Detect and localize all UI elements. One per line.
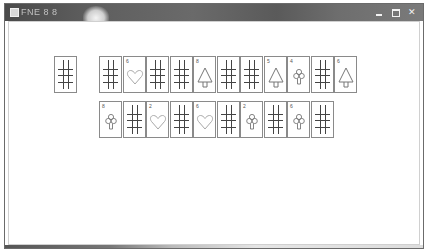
row-1-card[interactable]	[146, 56, 169, 93]
card-rank: 2	[243, 103, 246, 109]
heart-icon	[149, 110, 167, 134]
card-rank: 6	[290, 103, 293, 109]
title-bar[interactable]: FNE 8 8 ✕	[5, 4, 423, 21]
card-back-grid-icon	[315, 60, 330, 89]
card-back-grid-icon	[268, 105, 283, 134]
row-1-card[interactable]: 4	[287, 56, 310, 93]
card-back-grid-icon	[103, 60, 118, 89]
card-back-grid-icon	[221, 105, 236, 134]
row-1-card[interactable]	[240, 56, 263, 93]
window-title: FNE 8 8	[21, 7, 58, 17]
spade-icon	[196, 65, 214, 89]
spade-icon	[337, 65, 355, 89]
row-2-card[interactable]: 8	[99, 101, 122, 138]
club-icon	[290, 65, 308, 89]
window-bottom-edge	[5, 245, 423, 248]
card-rank: 6	[196, 103, 199, 109]
row-2-card[interactable]	[311, 101, 334, 138]
app-icon[interactable]	[10, 8, 19, 17]
row-2-card[interactable]: 6	[193, 101, 216, 138]
card-back-grid-icon	[174, 60, 189, 89]
card-rank: 6	[126, 58, 129, 64]
spade-icon	[267, 65, 285, 89]
card-back-grid-icon	[174, 105, 189, 134]
row-2-card[interactable]	[123, 101, 146, 138]
card-rank: 4	[290, 58, 293, 64]
close-button[interactable]: ✕	[405, 7, 419, 18]
maximize-button[interactable]	[388, 7, 402, 18]
row-2-card[interactable]: 2	[240, 101, 263, 138]
club-icon	[290, 110, 308, 134]
row-2-card[interactable]	[217, 101, 240, 138]
game-board: 6854682626	[8, 21, 420, 245]
row-1-card[interactable]	[311, 56, 334, 93]
row-2-card[interactable]	[170, 101, 193, 138]
card-back-grid-icon	[315, 105, 330, 134]
deck-pile[interactable]	[54, 56, 77, 93]
club-icon	[243, 110, 261, 134]
row-1-card[interactable]: 6	[123, 56, 146, 93]
card-rank: 8	[102, 103, 105, 109]
card-rank: 8	[196, 58, 199, 64]
heart-icon	[126, 65, 144, 89]
card-back-grid-icon	[127, 105, 142, 134]
row-1-card[interactable]: 6	[334, 56, 357, 93]
row-2-card[interactable]: 6	[287, 101, 310, 138]
minimize-button[interactable]	[372, 7, 386, 18]
row-1-card[interactable]	[217, 56, 240, 93]
card-rank: 2	[149, 103, 152, 109]
card-rank: 6	[337, 58, 340, 64]
row-2-card[interactable]	[264, 101, 287, 138]
card-back-grid-icon	[244, 60, 259, 89]
card-rank: 5	[267, 58, 270, 64]
game-window: FNE 8 8 ✕ 6854682626	[4, 3, 424, 249]
row-1-card[interactable]	[99, 56, 122, 93]
card-back-grid-icon	[58, 60, 73, 89]
heart-icon	[196, 110, 214, 134]
row-1-card[interactable]: 5	[264, 56, 287, 93]
row-1-card[interactable]: 8	[193, 56, 216, 93]
titlebar-glow	[83, 6, 109, 21]
row-2-card[interactable]: 2	[146, 101, 169, 138]
club-icon	[102, 110, 120, 134]
card-back-grid-icon	[150, 60, 165, 89]
card-back-grid-icon	[221, 60, 236, 89]
row-1-card[interactable]	[170, 56, 193, 93]
